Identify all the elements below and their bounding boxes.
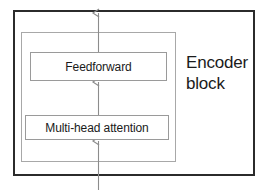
encoder-block-caption-line-2: block xyxy=(186,73,254,94)
encoder-block-diagram: Feedforward Multi-head attention Encoder… xyxy=(0,0,266,190)
encoder-block-caption: Encoder block xyxy=(186,52,254,94)
sublayer-feedforward: Feedforward xyxy=(30,52,167,81)
encoder-block-caption-line-1: Encoder xyxy=(186,52,254,73)
sublayer-multi-head-attention-label: Multi-head attention xyxy=(45,122,148,134)
sublayer-multi-head-attention: Multi-head attention xyxy=(25,115,169,140)
sublayer-feedforward-label: Feedforward xyxy=(65,61,131,73)
